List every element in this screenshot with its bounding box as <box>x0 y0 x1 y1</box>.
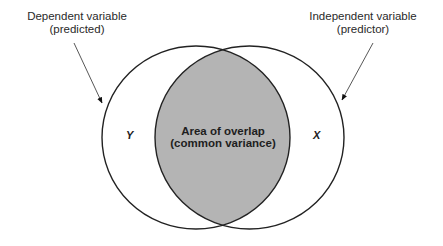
overlap-line2: (common variance) <box>163 137 283 149</box>
venn-diagram <box>0 0 443 246</box>
independent-variable-label: Independent variable (predictor) <box>298 10 428 35</box>
dependent-variable-line2: (predicted) <box>17 23 137 36</box>
right-arrow-icon <box>342 43 373 100</box>
dependent-variable-label: Dependent variable (predicted) <box>17 10 137 35</box>
set-y-label: Y <box>126 129 133 141</box>
overlap-label: Area of overlap (common variance) <box>163 125 283 149</box>
independent-variable-line2: (predictor) <box>298 23 428 36</box>
independent-variable-line1: Independent variable <box>298 10 428 23</box>
left-arrow-icon <box>74 43 102 103</box>
dependent-variable-line1: Dependent variable <box>17 10 137 23</box>
set-x-label: X <box>313 129 320 141</box>
overlap-line1: Area of overlap <box>163 125 283 137</box>
